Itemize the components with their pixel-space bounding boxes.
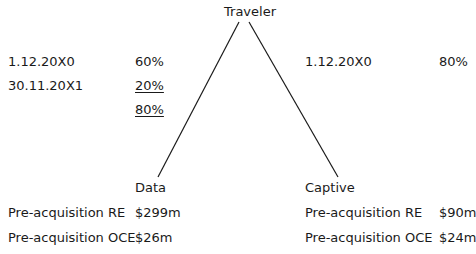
captive-oce-value: $24m: [439, 230, 476, 246]
line-traveler-to-captive: [249, 22, 338, 177]
data-oce-label: Pre-acquisition OCE: [8, 230, 136, 246]
left-pct-2: 20%: [135, 78, 164, 94]
subsidiary-captive: Captive: [305, 180, 355, 196]
captive-re-label: Pre-acquisition RE: [305, 205, 422, 221]
right-date-1: 1.12.20X0: [305, 54, 372, 70]
data-re-value: $299m: [135, 205, 181, 221]
captive-re-value: $90m: [439, 205, 476, 221]
left-date-1: 1.12.20X0: [8, 54, 75, 70]
subsidiary-data: Data: [135, 180, 166, 196]
left-pct-1: 60%: [135, 54, 164, 70]
data-re-label: Pre-acquisition RE: [8, 205, 125, 221]
left-date-2: 30.11.20X1: [8, 78, 83, 94]
data-oce-value: $26m: [135, 230, 172, 246]
line-traveler-to-data: [158, 22, 239, 177]
parent-traveler: Traveler: [224, 4, 276, 20]
captive-oce-label: Pre-acquisition OCE: [305, 230, 433, 246]
right-pct-1: 80%: [439, 54, 468, 70]
left-pct-total: 80%: [135, 102, 164, 118]
